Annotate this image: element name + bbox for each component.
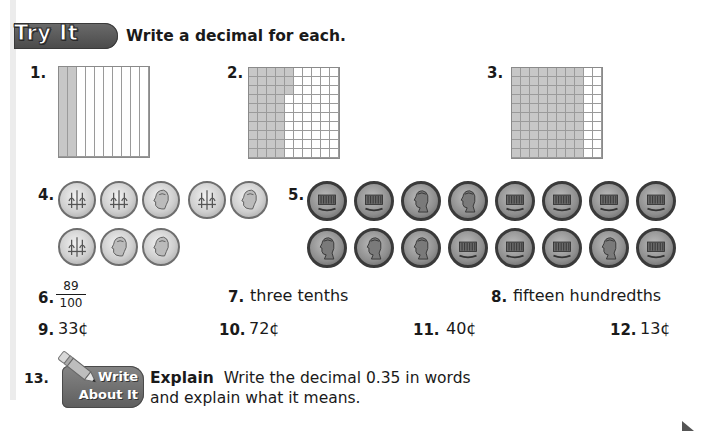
grid-cell <box>521 122 530 131</box>
grid-cell <box>557 77 566 86</box>
grid-cell <box>303 68 312 77</box>
grid-cell <box>584 104 593 113</box>
grid-cell <box>512 131 521 140</box>
penny-back-coin <box>307 181 347 221</box>
grid-cell <box>593 140 602 149</box>
grid-cell <box>330 86 339 95</box>
grid-cell <box>512 149 521 158</box>
grid-cell <box>593 113 602 122</box>
grid-cell <box>249 68 258 77</box>
grid-cell <box>276 95 285 104</box>
penny-front-coin <box>354 228 394 268</box>
grid-cell <box>276 77 285 86</box>
grid-cell <box>566 104 575 113</box>
item-7-text: three tenths <box>250 286 348 305</box>
grid-cell <box>249 86 258 95</box>
grid-cell <box>321 149 330 158</box>
grid-cell <box>321 140 330 149</box>
grid-cell <box>566 149 575 158</box>
penny-back-coin <box>495 228 535 268</box>
grid-cell <box>276 140 285 149</box>
penny-back-coin <box>495 181 535 221</box>
grid-cell <box>285 149 294 158</box>
grid-cell <box>593 122 602 131</box>
grid-cell <box>584 122 593 131</box>
grid-cell <box>312 113 321 122</box>
grid-cell <box>539 68 548 77</box>
grid-cell <box>294 122 303 131</box>
fraction-numerator: 89 <box>56 279 86 295</box>
grid-cell <box>566 86 575 95</box>
grid-cell <box>104 67 113 157</box>
grid-cell <box>249 113 258 122</box>
grid-cell <box>285 140 294 149</box>
grid-cell <box>512 140 521 149</box>
grid-cell <box>68 67 77 157</box>
grid-cell <box>330 131 339 140</box>
badge-line-2: About It <box>79 387 138 402</box>
next-page-arrow-icon[interactable] <box>682 421 694 431</box>
grid-cell <box>566 77 575 86</box>
grid-cell <box>575 95 584 104</box>
item-11-number: 11. <box>413 321 440 339</box>
grid-cell <box>593 95 602 104</box>
item-3-hundredths-grid <box>511 67 603 159</box>
grid-cell <box>303 113 312 122</box>
grid-cell <box>548 86 557 95</box>
grid-cell <box>258 86 267 95</box>
item-11-text: 40¢ <box>446 319 477 338</box>
grid-cell <box>294 131 303 140</box>
penny-back-coin <box>542 181 582 221</box>
item-9-number: 9. <box>38 321 54 339</box>
penny-back-coin <box>542 228 582 268</box>
grid-cell <box>258 149 267 158</box>
grid-cell <box>330 122 339 131</box>
grid-cell <box>312 122 321 131</box>
grid-cell <box>512 77 521 86</box>
grid-cell <box>593 68 602 77</box>
grid-cell <box>539 131 548 140</box>
grid-cell <box>294 113 303 122</box>
grid-cell <box>258 113 267 122</box>
grid-cell <box>294 68 303 77</box>
grid-cell <box>584 131 593 140</box>
grid-cell <box>276 122 285 131</box>
dime-front-coin <box>142 181 180 219</box>
grid-cell <box>575 77 584 86</box>
grid-cell <box>539 113 548 122</box>
grid-cell <box>267 113 276 122</box>
grid-cell <box>312 140 321 149</box>
item-13-number: 13. <box>24 370 49 386</box>
item-8-number: 8. <box>491 288 507 306</box>
grid-cell <box>530 95 539 104</box>
grid-cell <box>95 67 104 157</box>
grid-cell <box>539 140 548 149</box>
grid-cell <box>521 113 530 122</box>
grid-cell <box>584 140 593 149</box>
grid-cell <box>557 113 566 122</box>
grid-cell <box>258 140 267 149</box>
grid-cell <box>548 77 557 86</box>
grid-cell <box>303 122 312 131</box>
grid-cell <box>557 122 566 131</box>
grid-cell <box>258 122 267 131</box>
grid-cell <box>285 68 294 77</box>
grid-cell <box>258 131 267 140</box>
grid-cell <box>303 86 312 95</box>
grid-cell <box>249 149 258 158</box>
grid-cell <box>294 95 303 104</box>
grid-cell <box>312 77 321 86</box>
grid-cell <box>131 67 140 157</box>
grid-cell <box>566 68 575 77</box>
dime-front-coin <box>142 228 180 266</box>
dime-back-coin <box>58 228 96 266</box>
item-4-number: 4. <box>38 186 54 204</box>
grid-cell <box>521 86 530 95</box>
grid-cell <box>86 67 95 157</box>
grid-cell <box>267 77 276 86</box>
grid-cell <box>276 149 285 158</box>
item-6-number: 6. <box>38 289 54 307</box>
item-8-text: fifteen hundredths <box>513 286 661 305</box>
grid-cell <box>267 149 276 158</box>
grid-cell <box>593 131 602 140</box>
